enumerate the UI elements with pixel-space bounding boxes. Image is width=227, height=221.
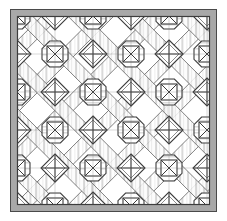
tile-pattern-figure (0, 0, 227, 221)
pattern-canvas (0, 0, 227, 221)
pattern-field (0, 0, 227, 221)
